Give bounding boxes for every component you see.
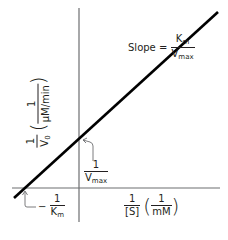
- y-axis-unit-numerator: 1: [26, 100, 38, 108]
- slope-prefix: Slope =: [128, 42, 167, 53]
- x-intercept-fraction: 1 Km: [50, 194, 65, 219]
- y-axis-numerator: 1: [25, 137, 37, 145]
- slope-fraction: Km Vmax: [171, 34, 195, 61]
- y-intercept-denominator: V: [85, 172, 92, 183]
- y-intercept-fraction: 1 Vmax: [84, 160, 108, 185]
- slope-numerator-sub: m: [182, 38, 189, 46]
- x-intercept-numerator: 1: [53, 194, 61, 205]
- y-axis-unit-fraction: 1 µM/min: [26, 84, 51, 123]
- y-intercept-label: 1 Vmax: [84, 160, 108, 185]
- y-axis-denominator-sub: 0: [44, 135, 52, 139]
- x-axis-fraction: 1 [S]: [124, 194, 140, 217]
- y-axis-denominator: V: [39, 140, 50, 147]
- x-axis-unit-numerator: 1: [157, 194, 165, 205]
- x-intercept-label: − 1 Km: [38, 194, 65, 219]
- x-axis-label: 1 [S] ( 1 mM ): [124, 194, 179, 217]
- x-intercept-denominator-sub: m: [57, 211, 64, 219]
- slope-label: Slope = Km Vmax: [128, 34, 195, 61]
- y-intercept-arrow: [83, 140, 93, 161]
- x-axis-unit-fraction: 1 mM: [151, 194, 171, 217]
- y-intercept-numerator: 1: [92, 160, 100, 171]
- x-axis-unit-denominator: mM: [151, 205, 171, 217]
- y-axis-unit-denominator: µM/min: [38, 84, 51, 123]
- y-axis-fraction: 1 V0: [25, 134, 52, 147]
- slope-denominator-sub: max: [178, 53, 193, 61]
- y-intercept-denominator-sub: max: [92, 177, 107, 185]
- y-axis-label: 1 V0 ( 1 µM/min ): [25, 76, 52, 147]
- x-intercept-sign: −: [38, 201, 46, 212]
- x-axis-numerator: 1: [128, 194, 136, 205]
- x-axis-denominator: [S]: [124, 205, 140, 217]
